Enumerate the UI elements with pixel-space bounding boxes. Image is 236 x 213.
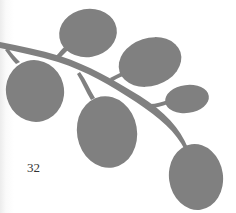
leafy-branch-illustration [0, 0, 236, 213]
book-page: 32 [0, 0, 236, 213]
page-number: 32 [27, 160, 40, 176]
